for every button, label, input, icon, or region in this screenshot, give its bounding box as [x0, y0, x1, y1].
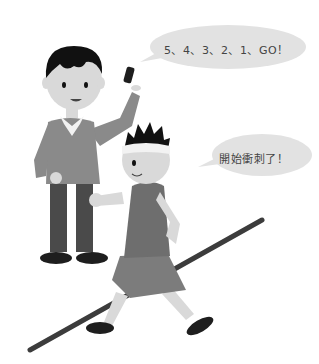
starter-pistol-icon — [123, 66, 141, 91]
teacher-speech-text: 5、4、3、2、1、GO！ — [164, 41, 289, 57]
runner-speech-text: 開始衝刺了！ — [219, 150, 288, 166]
illustration-canvas: 5、4、3、2、1、GO！ 開始衝刺了！ — [0, 0, 319, 364]
